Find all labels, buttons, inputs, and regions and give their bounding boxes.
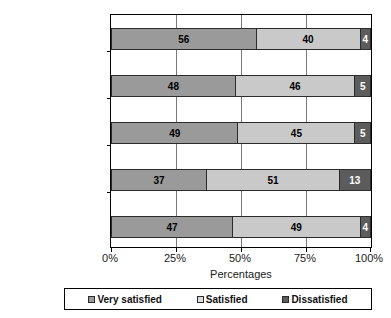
x-axis-label-75: 75% <box>275 252 335 264</box>
x-axis-label-0: 0% <box>80 252 140 264</box>
legend-label: Dissatisfied <box>291 294 347 305</box>
plot-area: 56 40 4 48 46 5 49 45 5 37 51 13 47 49 4 <box>110 14 372 248</box>
bar-segment-very-satisfied: 48 <box>111 75 236 97</box>
legend-swatch-icon <box>88 296 95 303</box>
bar-segment-very-satisfied: 49 <box>111 122 238 144</box>
y-axis-tick <box>107 192 111 193</box>
chart-legend: Very satisfied Satisfied Dissatisfied <box>64 288 372 310</box>
y-axis-tick <box>107 51 111 52</box>
bar-segment-satisfied: 46 <box>236 75 356 97</box>
bar-segment-very-satisfied: 47 <box>111 216 233 238</box>
x-axis-label-50: 50% <box>210 252 270 264</box>
legend-label: Satisfied <box>206 294 248 305</box>
x-axis-title: Percentages <box>110 268 372 280</box>
bar-segment-satisfied: 51 <box>207 169 340 191</box>
stacked-bar-chart: Quality of info Clarity Level of technic… <box>0 0 391 318</box>
bar-segment-dissatisfied: 4 <box>361 28 371 50</box>
bar-segment-dissatisfied: 13 <box>340 169 371 191</box>
table-row: 37 51 13 <box>111 169 371 191</box>
table-row: 56 40 4 <box>111 28 371 50</box>
x-axis-label-100: 100% <box>339 252 391 264</box>
bar-segment-satisfied: 45 <box>238 122 355 144</box>
legend-item-dissatisfied: Dissatisfied <box>282 294 347 305</box>
bar-segment-very-satisfied: 56 <box>111 28 257 50</box>
table-row: 49 45 5 <box>111 122 371 144</box>
bar-segment-dissatisfied: 5 <box>355 75 371 97</box>
bar-segment-dissatisfied: 5 <box>355 122 371 144</box>
y-axis-tick <box>107 98 111 99</box>
y-axis-tick <box>107 145 111 146</box>
legend-swatch-icon <box>197 296 204 303</box>
legend-label: Very satisfied <box>97 294 161 305</box>
bar-segment-dissatisfied: 4 <box>361 216 371 238</box>
bar-segment-satisfied: 49 <box>233 216 360 238</box>
legend-item-satisfied: Satisfied <box>197 294 248 305</box>
x-axis-label-25: 25% <box>145 252 205 264</box>
legend-swatch-icon <box>282 296 289 303</box>
legend-item-very-satisfied: Very satisfied <box>88 294 161 305</box>
bar-segment-satisfied: 40 <box>257 28 361 50</box>
table-row: 47 49 4 <box>111 216 371 238</box>
table-row: 48 46 5 <box>111 75 371 97</box>
bar-segment-very-satisfied: 37 <box>111 169 207 191</box>
